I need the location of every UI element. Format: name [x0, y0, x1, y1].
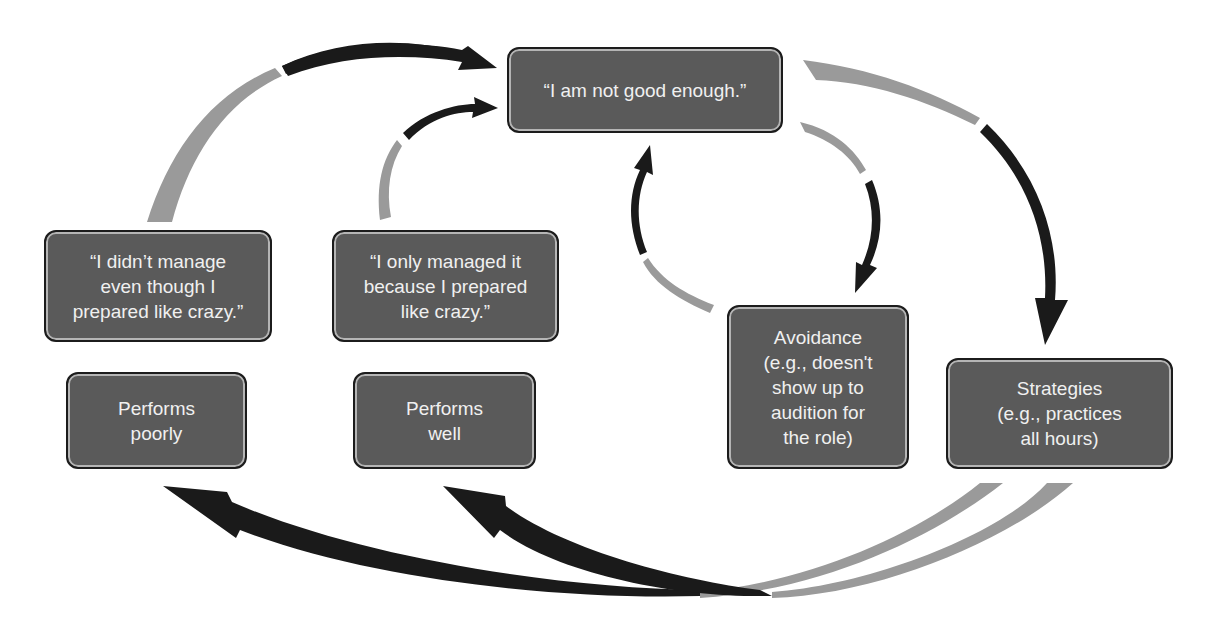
node-strategies-label: Strategies (e.g., practices all hours) — [997, 376, 1122, 451]
arrow-avoidance-to-belief — [631, 145, 714, 313]
node-performs-poorly: Performs poorly — [66, 372, 247, 469]
node-performs-well: Performs well — [353, 372, 536, 469]
node-attribution-fail: “I didn’t manage even though I prepared … — [44, 230, 272, 342]
node-strategies: Strategies (e.g., practices all hours) — [946, 358, 1173, 469]
node-attribution-fail-label: “I didn’t manage even though I prepared … — [73, 249, 244, 324]
node-attribution-success-label: “I only managed it because I prepared li… — [364, 249, 528, 324]
node-performs-well-label: Performs well — [406, 396, 483, 446]
node-performs-poorly-label: Performs poorly — [118, 396, 195, 446]
arrow-success-to-belief — [379, 97, 498, 220]
node-core-belief: “I am not good enough.” — [507, 47, 783, 133]
node-avoidance-label: Avoidance (e.g., doesn't show up to audi… — [763, 325, 872, 450]
node-attribution-success: “I only managed it because I prepared li… — [332, 230, 559, 342]
node-avoidance: Avoidance (e.g., doesn't show up to audi… — [727, 305, 909, 469]
node-core-belief-label: “I am not good enough.” — [544, 78, 747, 103]
arrow-belief-to-strategies — [803, 60, 1068, 345]
arrow-belief-to-avoidance — [800, 122, 880, 293]
arrow-fail-to-belief — [147, 43, 497, 222]
